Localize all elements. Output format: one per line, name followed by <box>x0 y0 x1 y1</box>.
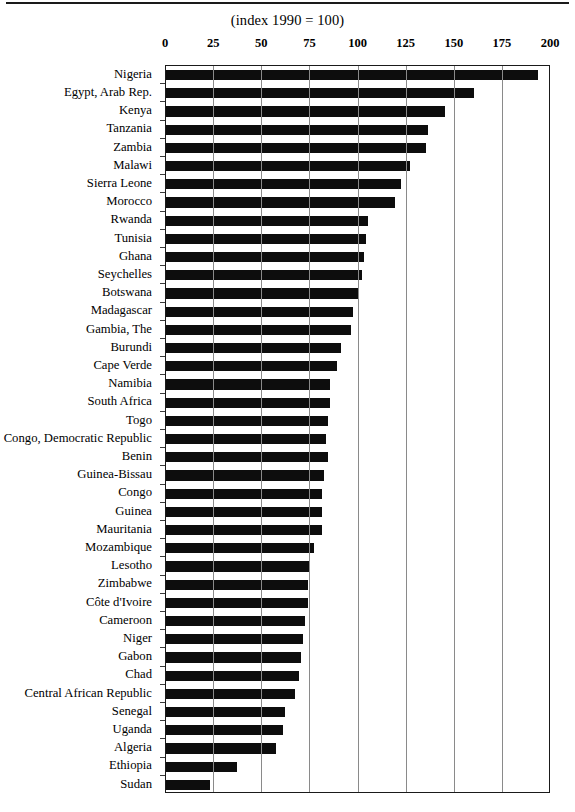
bar <box>166 143 426 153</box>
bar <box>166 616 305 626</box>
plot-area <box>165 65 550 793</box>
bar <box>166 634 303 644</box>
bar-chart-figure: (index 1990 = 100) 025507510012515017520… <box>0 0 575 812</box>
bar <box>166 489 322 499</box>
bar <box>166 288 359 298</box>
chart-title: (index 1990 = 100) <box>0 12 575 29</box>
bar <box>166 507 322 517</box>
x-tick-label-150: 150 <box>444 36 463 51</box>
x-tick-label-50: 50 <box>255 36 268 51</box>
bar <box>166 780 210 790</box>
bar <box>166 270 362 280</box>
bar <box>166 361 337 371</box>
bar <box>166 707 285 717</box>
bar <box>166 343 341 353</box>
bar <box>166 725 283 735</box>
gridline-175 <box>502 66 503 792</box>
gridline-25 <box>213 66 214 792</box>
x-tick-label-100: 100 <box>348 36 367 51</box>
bar <box>166 70 538 80</box>
bar <box>166 671 299 681</box>
bar <box>166 325 351 335</box>
bar <box>166 543 314 553</box>
gridline-125 <box>406 66 407 792</box>
bar <box>166 216 368 226</box>
bar <box>166 652 301 662</box>
bar <box>166 525 322 535</box>
bar <box>166 398 330 408</box>
bar <box>166 743 276 753</box>
x-tick-label-75: 75 <box>303 36 316 51</box>
gridline-75 <box>309 66 310 792</box>
bar <box>166 470 324 480</box>
bar <box>166 379 330 389</box>
bar <box>166 452 328 462</box>
bar <box>166 762 237 772</box>
gridline-50 <box>261 66 262 792</box>
y-axis-tick-marks <box>0 65 165 793</box>
bar <box>166 197 395 207</box>
bar <box>166 125 428 135</box>
bar <box>166 689 295 699</box>
bar <box>166 561 310 571</box>
x-tick-label-125: 125 <box>396 36 415 51</box>
bar <box>166 434 326 444</box>
x-tick-label-0: 0 <box>162 36 168 51</box>
bar <box>166 234 366 244</box>
gridline-150 <box>454 66 455 792</box>
bar <box>166 580 308 590</box>
bar <box>166 307 353 317</box>
bar <box>166 161 410 171</box>
x-tick-label-200: 200 <box>541 36 560 51</box>
x-tick-label-175: 175 <box>493 36 512 51</box>
bar <box>166 252 364 262</box>
gridline-100 <box>358 66 359 792</box>
x-tick-label-25: 25 <box>207 36 220 51</box>
x-axis-tick-labels: 0255075100125150175200 <box>0 36 575 52</box>
bar <box>166 416 328 426</box>
bar <box>166 179 401 189</box>
bar <box>166 106 445 116</box>
bar <box>166 598 308 608</box>
